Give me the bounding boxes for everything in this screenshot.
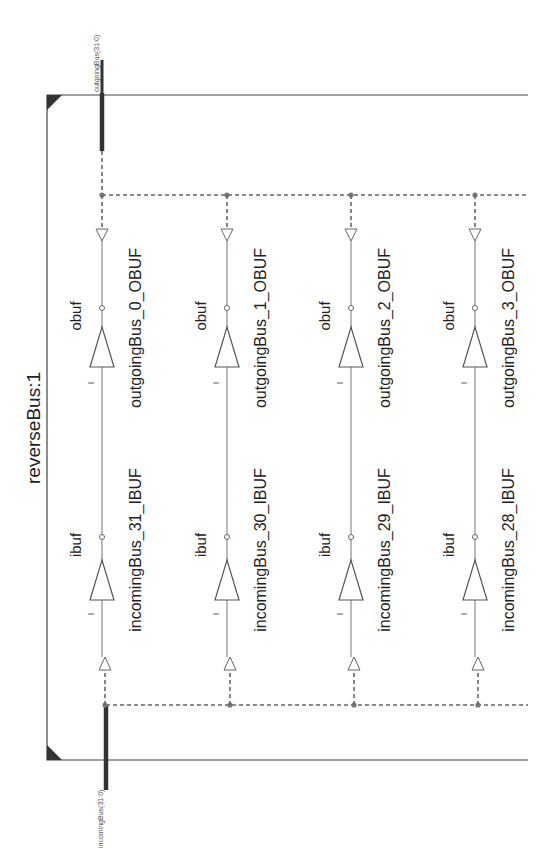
input-port-arrow-icon	[472, 657, 484, 670]
obuf-in-pin-label: I	[459, 382, 469, 385]
output-pin-circle-icon	[349, 306, 354, 311]
input-bus-label: incomingBus(31:0)	[97, 790, 105, 848]
output-pin-circle-icon	[225, 535, 230, 540]
output-pin-circle-icon	[100, 306, 105, 311]
frame-corner-marker-top	[47, 95, 62, 110]
obuf-cell[interactable]: obufIoutgoingBus_0_OBUF	[67, 248, 145, 408]
output-bus-port[interactable]: outgoingBus(31:0)	[93, 35, 102, 151]
obuf-cell[interactable]: obufIoutgoingBus_1_OBUF	[192, 248, 270, 408]
output-pin-circle-icon	[349, 535, 354, 540]
obuf-type-label: obuf	[316, 301, 333, 331]
frame-corner-marker-bottom	[47, 745, 62, 760]
ibuf-cell[interactable]: ibufIincomingBus_29_IBUF	[316, 468, 394, 632]
obuf-cell[interactable]: obufIoutgoingBus_2_OBUF	[316, 248, 394, 408]
buffer-triangle-icon	[463, 327, 487, 367]
output-port-arrow-icon	[221, 229, 233, 241]
buffer-row: obufIoutgoingBus_2_OBUFibufIincomingBus_…	[316, 192, 394, 707]
obuf-in-pin-label: I	[86, 382, 96, 385]
obuf-instance-label: outgoingBus_1_OBUF	[252, 248, 270, 408]
buffer-triangle-icon	[215, 560, 239, 600]
buffer-triangle-icon	[90, 327, 114, 367]
ibuf-instance-label: incomingBus_30_IBUF	[252, 468, 270, 632]
obuf-cell[interactable]: obufIoutgoingBus_3_OBUF	[440, 248, 518, 408]
buffer-row: obufIoutgoingBus_1_OBUFibufIincomingBus_…	[192, 192, 270, 707]
output-pin-circle-icon	[225, 306, 230, 311]
ibuf-cell[interactable]: ibufIincomingBus_30_IBUF	[192, 468, 270, 632]
ibuf-instance-label: incomingBus_29_IBUF	[376, 468, 394, 632]
ibuf-type-label: ibuf	[440, 532, 457, 557]
ibuf-in-pin-label: I	[211, 613, 221, 616]
input-port-arrow-icon	[348, 657, 360, 670]
input-port-arrow-icon	[99, 657, 111, 670]
buffer-triangle-icon	[215, 327, 239, 367]
ibuf-type-label: ibuf	[316, 532, 333, 557]
module-title: reverseBus:1	[23, 372, 44, 484]
obuf-type-label: obuf	[440, 301, 457, 331]
buffer-triangle-icon	[339, 560, 363, 600]
ibuf-cell[interactable]: ibufIincomingBus_31_IBUF	[67, 468, 145, 632]
obuf-type-label: obuf	[67, 301, 84, 331]
output-pin-circle-icon	[473, 535, 478, 540]
ibuf-in-pin-label: I	[459, 613, 469, 616]
obuf-type-label: obuf	[192, 301, 209, 331]
input-port-arrow-icon	[224, 657, 236, 670]
ibuf-type-label: ibuf	[192, 532, 209, 557]
buffer-triangle-icon	[90, 560, 114, 600]
buffer-row: obufIoutgoingBus_0_OBUFibufIincomingBus_…	[67, 192, 145, 707]
ibuf-type-label: ibuf	[67, 532, 84, 557]
schematic-canvas: reverseBus:1 outgoingBus(31:0) incomingB…	[0, 0, 542, 848]
obuf-in-pin-label: I	[211, 382, 221, 385]
output-port-arrow-icon	[469, 229, 481, 241]
obuf-instance-label: outgoingBus_0_OBUF	[127, 248, 145, 408]
output-bus-label: outgoingBus(31:0)	[93, 35, 101, 92]
obuf-in-pin-label: I	[335, 382, 345, 385]
obuf-instance-label: outgoingBus_3_OBUF	[500, 248, 518, 408]
buffer-row: obufIoutgoingBus_3_OBUFibufIincomingBus_…	[440, 192, 518, 707]
output-pin-circle-icon	[473, 306, 478, 311]
buffer-triangle-icon	[463, 560, 487, 600]
input-bus-port[interactable]: incomingBus(31:0)	[97, 705, 106, 848]
output-port-arrow-icon	[96, 229, 108, 241]
ibuf-in-pin-label: I	[335, 613, 345, 616]
obuf-instance-label: outgoingBus_2_OBUF	[376, 248, 394, 408]
ibuf-instance-label: incomingBus_31_IBUF	[127, 468, 145, 632]
ibuf-instance-label: incomingBus_28_IBUF	[500, 468, 518, 632]
buffer-triangle-icon	[339, 327, 363, 367]
output-pin-circle-icon	[100, 535, 105, 540]
output-port-arrow-icon	[345, 229, 357, 241]
ibuf-in-pin-label: I	[86, 613, 96, 616]
ibuf-cell[interactable]: ibufIincomingBus_28_IBUF	[440, 468, 518, 632]
